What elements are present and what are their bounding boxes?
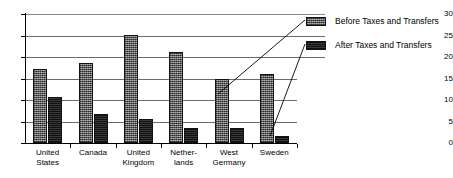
legend-label-after: After Taxes and Transfers [335,40,432,50]
bar-sweden-after [275,136,289,143]
y-tick-label-0: 0 [435,139,453,147]
x-axis-label-canada: Canada [70,148,115,158]
legend-item-after[interactable]: After Taxes and Transfers [306,39,432,51]
bar-west-germany-before [215,79,229,143]
x-axis-label-netherlands: Nether- lands [161,148,206,167]
y-tick-0 [21,143,25,144]
bar-west-germany-after [230,128,244,143]
bar-united-kingdom-after [139,119,153,144]
x-axis-label-west-germany: West Germany [206,148,251,167]
bar-united-kingdom-before [124,35,138,143]
bar-united-states-before [33,69,47,143]
legend-label-before: Before Taxes and Transfers [335,16,439,26]
bar-canada-after [94,114,108,143]
y-tick-label-15: 15 [435,75,453,83]
bar-netherlands-after [184,128,198,143]
bar-chart: 30 25 20 15 10 5 0 United StatesCanadaUn… [0,0,453,178]
bar-netherlands-before [169,52,183,143]
y-tick-label-10: 10 [435,96,453,104]
x-axis-label-united-states: United States [25,148,70,167]
legend-swatch-after-icon [306,41,326,50]
y-tick-label-5: 5 [435,118,453,126]
y-tick-label-25: 25 [435,32,453,40]
x-axis-label-united-kingdom: United Kingdom [116,148,161,167]
x-axis-label-sweden: Sweden [252,148,297,158]
bar-canada-before [79,63,93,143]
legend-item-before[interactable]: Before Taxes and Transfers [306,15,439,27]
legend-swatch-before-icon [306,17,326,26]
y-tick-label-20: 20 [435,53,453,61]
plot-area [25,14,297,143]
bar-sweden-before [260,74,274,143]
bar-united-states-after [48,97,62,143]
x-tick-end [297,144,298,148]
